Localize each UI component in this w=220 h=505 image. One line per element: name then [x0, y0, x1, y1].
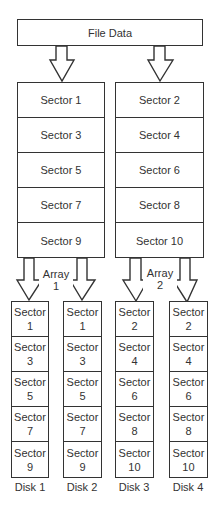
disk-sector-label: Sector 2 [119, 305, 151, 333]
disk-3: Sector 2 Sector 4 Sector 6 Sector 8 Sect… [115, 301, 154, 478]
disk-sector-label: Sector 5 [14, 375, 46, 403]
disk-4: Sector 2 Sector 4 Sector 6 Sector 8 Sect… [169, 301, 208, 478]
disk-sector-cell: Sector 9 [12, 442, 48, 477]
sector-cell: Sector 8 [116, 188, 203, 223]
disk-sector-cell: Sector 3 [64, 337, 101, 372]
sector-column-even: Sector 2 Sector 4 Sector 6 Sector 8 Sect… [115, 82, 204, 258]
disk-sector-label: Sector 7 [67, 410, 99, 438]
sector-cell: Sector 2 [116, 83, 203, 118]
disk-sector-label: Sector 6 [173, 375, 205, 403]
disk-1: Sector 1 Sector 3 Sector 5 Sector 7 Sect… [11, 301, 49, 478]
disk-sector-label: Sector 9 [14, 446, 46, 474]
disk-sector-cell: Sector 3 [12, 337, 48, 372]
disk-sector-label: Sector 10 [173, 446, 205, 474]
disk-sector-cell: Sector 5 [64, 372, 101, 407]
disk-sector-label: Sector 2 [173, 305, 205, 333]
disk-sector-cell: Sector 1 [12, 302, 48, 337]
arrow-down-icon [70, 258, 95, 300]
sector-column-odd: Sector 1 Sector 3 Sector 5 Sector 7 Sect… [17, 82, 105, 258]
sector-cell: Sector 7 [18, 188, 104, 223]
disk-sector-cell: Sector 7 [12, 407, 48, 442]
file-data-label: File Data [88, 27, 132, 39]
disk-sector-label: Sector 4 [173, 340, 205, 368]
disk-sector-cell: Sector 10 [116, 442, 153, 477]
disk-2: Sector 1 Sector 3 Sector 5 Sector 7 Sect… [63, 301, 102, 478]
sector-cell: Sector 9 [18, 223, 104, 258]
sector-cell: Sector 4 [116, 118, 203, 153]
disk-sector-label: Sector 3 [14, 340, 46, 368]
disk-sector-label: Sector 1 [67, 305, 99, 333]
disk-sector-cell: Sector 5 [12, 372, 48, 407]
sector-cell: Sector 6 [116, 153, 203, 188]
sector-cell: Sector 10 [116, 223, 203, 258]
disk-sector-cell: Sector 8 [116, 407, 153, 442]
disk-2-label: Disk 2 [57, 481, 107, 493]
disk-sector-cell: Sector 4 [116, 337, 153, 372]
disk-sector-cell: Sector 6 [116, 372, 153, 407]
disk-sector-label: Sector 5 [67, 375, 99, 403]
disk-sector-label: Sector 3 [67, 340, 99, 368]
arrow-down-icon [148, 46, 173, 81]
disk-sector-cell: Sector 4 [170, 337, 207, 372]
disk-sector-label: Sector 10 [119, 446, 151, 474]
disk-sector-label: Sector 4 [119, 340, 151, 368]
disk-sector-label: Sector 7 [14, 410, 46, 438]
disk-sector-cell: Sector 10 [170, 442, 207, 477]
disk-sector-label: Sector 6 [119, 375, 151, 403]
disk-4-label: Disk 4 [163, 481, 213, 493]
disk-sector-label: Sector 8 [173, 410, 205, 438]
disk-sector-cell: Sector 7 [64, 407, 101, 442]
disk-sector-cell: Sector 2 [116, 302, 153, 337]
disk-sector-cell: Sector 1 [64, 302, 101, 337]
array-1-label: Array 1 [39, 268, 73, 292]
disk-sector-cell: Sector 9 [64, 442, 101, 477]
array-word: Array [143, 267, 177, 279]
sector-cell: Sector 1 [18, 83, 104, 118]
disk-sector-label: Sector 9 [67, 446, 99, 474]
disk-sector-label: Sector 8 [119, 410, 151, 438]
array-number: 2 [143, 279, 177, 291]
array-number: 1 [39, 280, 73, 292]
arrow-down-icon [50, 46, 74, 81]
disk-3-label: Disk 3 [109, 481, 159, 493]
disk-sector-cell: Sector 8 [170, 407, 207, 442]
array-word: Array [39, 268, 73, 280]
array-2-label: Array 2 [143, 267, 177, 291]
disk-1-label: Disk 1 [5, 481, 55, 493]
disk-sector-label: Sector 1 [14, 305, 46, 333]
disk-sector-cell: Sector 6 [170, 372, 207, 407]
disk-sector-cell: Sector 2 [170, 302, 207, 337]
file-data-box: File Data [17, 19, 203, 46]
sector-cell: Sector 3 [18, 118, 104, 153]
sector-cell: Sector 5 [18, 153, 104, 188]
